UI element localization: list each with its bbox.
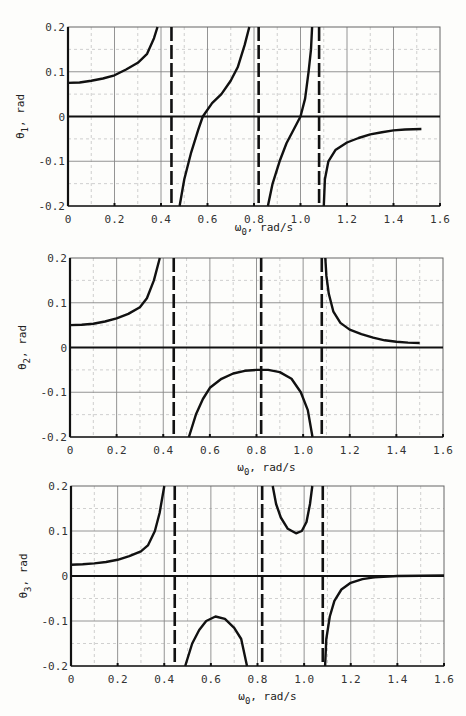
x-tick-label: 1.0 [291,213,311,226]
y-tick-label: 0.1 [45,66,65,79]
y-tick-label: 0 [60,342,67,355]
x-tick-label: 0.4 [151,213,171,226]
x-tick-label: 0.6 [201,673,221,686]
x-tick-label: 0 [68,673,75,686]
curve-branch-2 [189,370,313,437]
x-tick-label: 0.2 [108,673,128,686]
y-tick-label: -0.2 [39,200,66,213]
x-tick-label: 0.2 [107,444,127,457]
y-tick-label: -0.1 [42,615,69,628]
x-tick-label: 0.4 [153,444,173,457]
y-tick-label: -0.1 [39,155,66,168]
x-tick-label: 0 [65,213,72,226]
curve-branch-2 [185,617,247,667]
chart-canvas: 00.20.40.60.81.01.21.41.60.20.10-0.1-0.2… [0,0,466,716]
x-axis-label: ω0, rad/s [238,690,296,706]
x-tick-label: 1.4 [387,673,407,686]
x-axis-label: ω0, rad/s [237,461,295,477]
x-tick-label: 1.4 [386,444,406,457]
curve-branch-3 [325,258,419,343]
curve-branch-1 [68,27,158,83]
x-tick-label: 1.2 [337,213,357,226]
x-tick-label: 0.8 [247,444,267,457]
x-tick-label: 0 [67,444,74,457]
x-tick-label: 1.2 [341,673,361,686]
curve-branch-4 [324,129,422,206]
x-tick-label: 1.6 [433,444,453,457]
x-tick-label: 0.6 [198,213,218,226]
x-tick-label: 0.2 [105,213,125,226]
y-tick-label: 0.2 [47,252,67,265]
chart-panel-3: 00.20.40.60.81.01.21.41.60.20.10-0.1-0.2… [17,480,454,706]
y-tick-label: -0.1 [41,386,68,399]
y-tick-label: 0.2 [45,21,65,34]
x-tick-label: 1.6 [434,673,454,686]
curve-branch-1 [70,258,160,325]
x-tick-label: 0.8 [248,673,268,686]
y-tick-label: 0 [61,570,68,583]
y-tick-label: 0.1 [47,297,67,310]
y-axis-label: θ2, rad [16,325,32,370]
y-tick-label: 0 [58,111,65,124]
curve-branch-3 [273,486,313,533]
y-tick-label: -0.2 [42,660,69,673]
y-tick-label: -0.2 [41,431,68,444]
chart-panel-1: 00.20.40.60.81.01.21.41.60.20.10-0.1-0.2… [14,21,450,237]
y-tick-label: 0.2 [48,480,68,493]
x-tick-label: 1.0 [294,673,314,686]
x-tick-label: 1.0 [293,444,313,457]
x-tick-label: 1.2 [340,444,360,457]
x-tick-label: 1.4 [384,213,404,226]
y-axis-label: θ3, rad [17,553,33,598]
x-tick-label: 1.6 [430,213,450,226]
x-tick-label: 0.4 [154,673,174,686]
x-tick-label: 0.6 [200,444,220,457]
y-tick-label: 0.1 [48,525,68,538]
y-axis-label: θ1, rad [14,94,30,139]
chart-panel-2: 00.20.40.60.81.01.21.41.60.20.10-0.1-0.2… [16,252,453,477]
